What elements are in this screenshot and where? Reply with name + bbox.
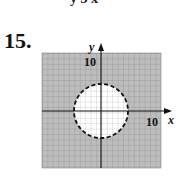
x-axis-label: x <box>167 113 174 127</box>
y-arrow-icon <box>98 43 104 51</box>
x-tick-label: 10 <box>146 115 158 129</box>
graph: y 10 x 10 <box>0 0 178 178</box>
y-axis-label: y <box>87 40 95 54</box>
y-tick-label: 10 <box>84 55 96 69</box>
